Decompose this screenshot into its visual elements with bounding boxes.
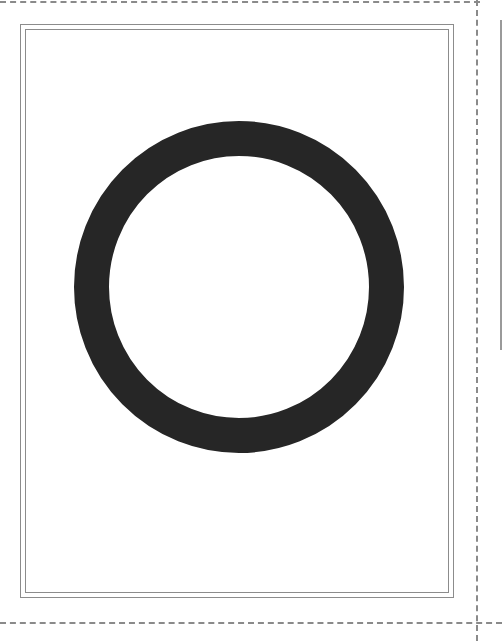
flashcard-sheet [0,0,502,641]
letter-o-ring-icon [0,0,502,641]
